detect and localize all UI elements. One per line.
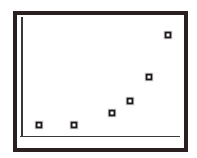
- data-point: [146, 74, 153, 81]
- data-point: [36, 122, 43, 129]
- y-axis-line: [21, 17, 23, 137]
- data-point: [109, 110, 116, 117]
- data-point: [71, 122, 78, 129]
- scatter-chart: [0, 0, 197, 158]
- data-point: [127, 98, 134, 105]
- data-point: [165, 32, 172, 39]
- x-axis-line: [20, 136, 180, 138]
